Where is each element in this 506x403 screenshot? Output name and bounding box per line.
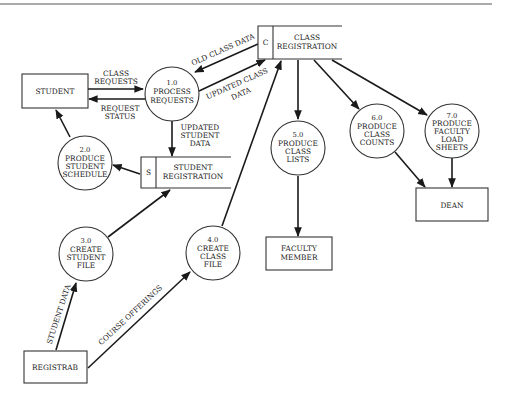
flow-counts-to-dean (395, 152, 425, 187)
store-class-registration[interactable]: C CLASS REGISTRATION (258, 26, 342, 59)
process-1-name-2: REQUESTS (150, 96, 194, 105)
process-4-name-3: FILE (204, 260, 222, 269)
process-1-process-requests[interactable]: 1.0 PROCESS REQUESTS (145, 67, 199, 121)
store-class-registration-name-1: CLASS (294, 33, 320, 42)
entity-faculty-member[interactable]: FACULTY MEMBER (266, 237, 332, 270)
entity-student[interactable]: STUDENT (22, 74, 88, 108)
label-course-offerings: COURSE OFFERINGS (97, 283, 165, 347)
process-5-number: 5.0 (293, 131, 304, 139)
process-3-number: 3.0 (81, 237, 92, 245)
process-4-number: 4.0 (208, 236, 219, 244)
process-6-number: 6.0 (372, 114, 383, 122)
entity-dean[interactable]: DEAN (416, 188, 488, 221)
store-class-registration-name-2: REGISTRATION (277, 42, 338, 51)
label-request-status-2: STATUS (105, 112, 136, 121)
label-student-data: STUDENT DATA (45, 283, 73, 345)
entity-dean-label: DEAN (440, 201, 464, 210)
entity-registrar[interactable]: REGISTRAB (24, 351, 87, 383)
process-7-produce-faculty-load-sheets[interactable]: 7.0 PRODUCE FACULTY LOAD SHEETS (425, 104, 479, 158)
process-7-name-4: SHEETS (436, 143, 468, 152)
process-3-create-student-file[interactable]: 3.0 CREATE STUDENT FILE (59, 227, 113, 281)
flow-schedule-to-student (56, 110, 70, 137)
entity-registrar-label: REGISTRAB (32, 363, 78, 372)
entity-student-label: STUDENT (36, 87, 75, 96)
entity-faculty-member-label-2: MEMBER (281, 253, 318, 262)
process-4-create-class-file[interactable]: 4.0 CREATE CLASS FILE (186, 226, 240, 280)
process-6-name-3: COUNTS (360, 138, 394, 147)
entity-faculty-member-label-1: FACULTY (281, 244, 317, 253)
process-5-name-3: LISTS (287, 155, 310, 164)
flow-class-registration-to-counts (314, 60, 359, 109)
store-student-registration-name-2: REGISTRATION (163, 172, 224, 181)
flow-course-offerings (88, 272, 190, 368)
process-2-name-3: SCHEDULE (62, 170, 107, 179)
store-class-registration-id: C (263, 38, 269, 47)
process-2-number: 2.0 (80, 146, 91, 154)
process-3-name-3: FILE (77, 261, 95, 270)
process-1-number: 1.0 (167, 79, 178, 87)
process-6-produce-class-counts[interactable]: 6.0 PRODUCE CLASS COUNTS (350, 104, 404, 158)
store-student-registration-name-1: STUDENT (174, 163, 213, 172)
process-5-produce-class-lists[interactable]: 5.0 PRODUCE CLASS LISTS (271, 121, 325, 175)
process-1-name-1: PROCESS (153, 87, 191, 96)
flow-student-file-to-registration (108, 190, 170, 237)
label-class-requests-2: REQUESTS (94, 77, 138, 86)
store-student-registration[interactable]: S STUDENT REGISTRATION (141, 157, 231, 188)
flow-registration-to-schedule (113, 165, 140, 174)
store-student-registration-id: S (146, 168, 151, 177)
data-flow-diagram: CLASS REQUESTS REQUEST STATUS OLD CLASS … (0, 0, 506, 403)
process-2-produce-student-schedule[interactable]: 2.0 PRODUCE STUDENT SCHEDULE (58, 136, 112, 190)
flows (56, 44, 452, 368)
label-updated-student-data-3: DATA (190, 139, 211, 148)
